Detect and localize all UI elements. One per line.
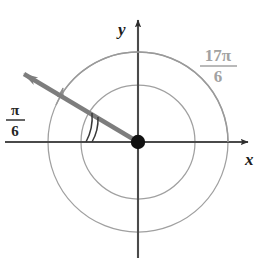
- figure-canvas: y x π 6 17π 6: [0, 0, 268, 264]
- x-axis-label: x: [244, 150, 254, 169]
- total-angle-denominator: 6: [214, 67, 223, 86]
- reference-angle-denominator: 6: [11, 123, 19, 139]
- reference-angle-numerator: π: [11, 102, 20, 118]
- total-angle-label: 17π 6: [200, 46, 237, 86]
- origin-dot: [131, 135, 145, 149]
- y-axis-label: y: [116, 20, 126, 39]
- total-angle-numerator: 17π: [205, 46, 232, 65]
- reference-angle-label: π 6: [6, 102, 25, 139]
- terminal-ray: [24, 74, 138, 142]
- coterminal-angle-figure: y x π 6 17π 6: [0, 0, 268, 264]
